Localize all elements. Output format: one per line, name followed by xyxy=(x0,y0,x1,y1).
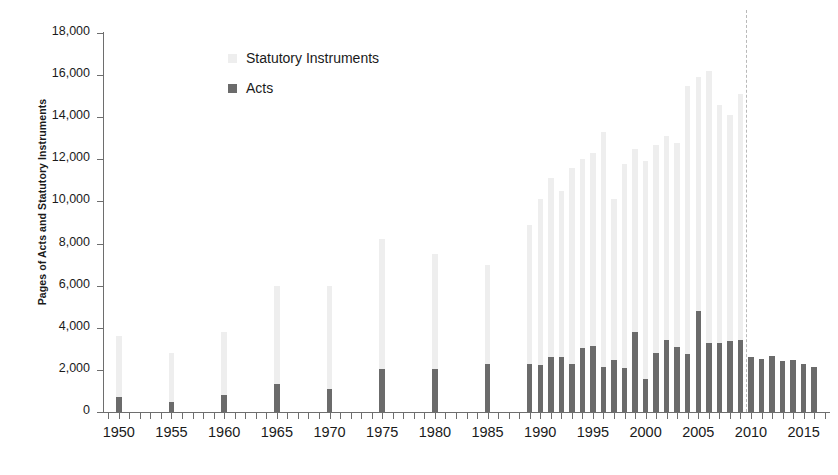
x-tick-mark-1967 xyxy=(298,413,299,419)
x-tick-mark-2006 xyxy=(709,413,710,419)
x-tick-mark-1951 xyxy=(129,413,130,419)
x-tick-mark-1959 xyxy=(214,413,215,419)
x-tick-mark-1960 xyxy=(224,413,225,419)
bar-segment-acts xyxy=(653,353,658,412)
x-tick-mark-1988 xyxy=(519,413,520,419)
bar-1999 xyxy=(632,33,637,412)
plot-area xyxy=(103,33,830,412)
bar-2015 xyxy=(801,33,806,412)
bar-2001 xyxy=(653,33,658,412)
y-tick-label: 12,000 xyxy=(52,150,90,164)
bar-1993 xyxy=(569,33,574,412)
x-tick-mark-1981 xyxy=(445,413,446,419)
bar-2005 xyxy=(696,33,701,412)
x-tick-mark-1976 xyxy=(393,413,394,419)
x-tick-label-1980: 1980 xyxy=(419,424,451,440)
x-tick-mark-1974 xyxy=(372,413,373,419)
bar-2014 xyxy=(790,33,795,412)
bar-1997 xyxy=(611,33,616,412)
x-tick-label-1965: 1965 xyxy=(261,424,293,440)
x-tick-mark-1984 xyxy=(477,413,478,419)
bar-segment-acts xyxy=(727,341,732,412)
y-tick-mark xyxy=(97,412,104,413)
bar-segment-acts xyxy=(379,369,384,412)
bar-2010 xyxy=(748,33,753,412)
x-tick-mark-2000 xyxy=(646,413,647,419)
x-tick-mark-1992 xyxy=(561,413,562,419)
bar-1955 xyxy=(169,33,174,412)
x-tick-label-1970: 1970 xyxy=(313,424,345,440)
bar-1950 xyxy=(116,33,121,412)
x-tick-mark-1972 xyxy=(351,413,352,419)
x-tick-mark-1955 xyxy=(171,413,172,419)
y-tick-label: 18,000 xyxy=(52,24,90,38)
y-tick-label: 0 xyxy=(83,403,90,417)
x-tick-mark-2011 xyxy=(762,413,763,419)
bar-segment-acts xyxy=(706,343,711,412)
x-tick-mark-1968 xyxy=(308,413,309,419)
bar-segment-acts xyxy=(674,347,679,412)
x-tick-mark-2008 xyxy=(730,413,731,419)
y-tick-label: 10,000 xyxy=(52,192,90,206)
x-tick-mark-2002 xyxy=(667,413,668,419)
x-tick-mark-2007 xyxy=(719,413,720,419)
bar-segment-acts xyxy=(632,332,637,412)
x-tick-mark-1980 xyxy=(435,413,436,419)
legend-item-2: Acts xyxy=(228,80,379,96)
y-axis-title: Pages of Acts and Statutory Instruments xyxy=(36,72,48,332)
bar-1980 xyxy=(432,33,437,412)
x-tick-mark-1996 xyxy=(603,413,604,419)
x-tick-mark-1958 xyxy=(203,413,204,419)
x-tick-label-1990: 1990 xyxy=(524,424,556,440)
x-tick-mark-1973 xyxy=(361,413,362,419)
bar-1991 xyxy=(548,33,553,412)
bar-segment-acts xyxy=(527,364,532,412)
bar-segment-acts xyxy=(717,343,722,412)
x-tick-mark-1989 xyxy=(530,413,531,419)
bar-2002 xyxy=(664,33,669,412)
x-tick-mark-1950 xyxy=(119,413,120,419)
x-tick-mark-1978 xyxy=(414,413,415,419)
legend-swatch-icon xyxy=(228,54,237,63)
bar-1975 xyxy=(379,33,384,412)
x-tick-mark-2004 xyxy=(688,413,689,419)
bar-2003 xyxy=(674,33,679,412)
x-tick-mark-2015 xyxy=(804,413,805,419)
x-tick-mark-1987 xyxy=(509,413,510,419)
y-tick-label: 2,000 xyxy=(59,361,90,375)
y-tick-label: 6,000 xyxy=(59,277,90,291)
bar-2013 xyxy=(780,33,785,412)
y-tick-label: 8,000 xyxy=(59,235,90,249)
bar-segment-acts xyxy=(769,356,774,412)
x-tick-mark-1957 xyxy=(193,413,194,419)
bar-2006 xyxy=(706,33,711,412)
x-tick-label-2010: 2010 xyxy=(735,424,767,440)
x-tick-mark-1966 xyxy=(287,413,288,419)
bar-1985 xyxy=(485,33,490,412)
bar-1990 xyxy=(538,33,543,412)
legend-label: Statutory Instruments xyxy=(246,50,379,66)
x-tick-mark-1954 xyxy=(161,413,162,419)
bar-segment-acts xyxy=(116,397,121,412)
x-tick-mark-1979 xyxy=(424,413,425,419)
x-tick-label-1975: 1975 xyxy=(366,424,398,440)
x-tick-mark-2010 xyxy=(751,413,752,419)
x-tick-label-1950: 1950 xyxy=(103,424,135,440)
legislation-pages-bar-chart: Pages of Acts and Statutory Instruments … xyxy=(0,0,838,475)
x-tick-mark-1977 xyxy=(403,413,404,419)
y-tick-label: 16,000 xyxy=(52,66,90,80)
x-tick-label-1960: 1960 xyxy=(208,424,240,440)
legend-label: Acts xyxy=(246,80,273,96)
x-tick-mark-1986 xyxy=(498,413,499,419)
y-tick-label: 4,000 xyxy=(59,319,90,333)
x-tick-mark-2003 xyxy=(677,413,678,419)
x-tick-mark-1997 xyxy=(614,413,615,419)
bar-1995 xyxy=(590,33,595,412)
bar-1998 xyxy=(622,33,627,412)
bar-segment-acts xyxy=(685,354,690,412)
chart-legend: Statutory InstrumentsActs xyxy=(228,50,379,110)
bar-segment-acts xyxy=(780,361,785,412)
x-tick-mark-1985 xyxy=(488,413,489,419)
bar-segment-acts xyxy=(432,369,437,412)
x-tick-mark-1962 xyxy=(245,413,246,419)
